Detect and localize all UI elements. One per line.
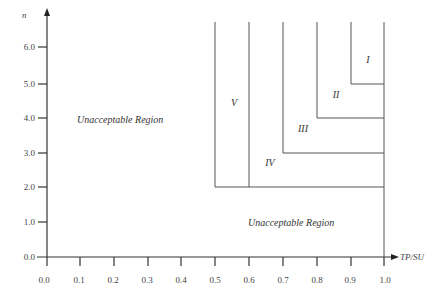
x-tick-label: 0.1 — [73, 275, 84, 285]
region-label-V: V — [231, 97, 239, 108]
x-tick-label: 0.5 — [209, 275, 221, 285]
region-label-IV: IV — [264, 157, 276, 168]
y-axis-title: n — [22, 10, 27, 20]
x-tick-label: 0.6 — [243, 275, 255, 285]
region-diagram: 0.0 1.0 2.0 3.0 4.0 5.0 6.0 n 0.0 0.1 0.… — [0, 0, 446, 300]
y-tick-labels: 0.0 1.0 2.0 3.0 4.0 5.0 6.0 — [24, 42, 36, 262]
x-ticks — [47, 257, 384, 266]
x-tick-label: 1.0 — [379, 275, 391, 285]
x-tick-label: 0.8 — [311, 275, 323, 285]
x-tick-label: 0.7 — [277, 275, 289, 285]
x-tick-label: 0.0 — [38, 275, 50, 285]
unacceptable-region-left: Unacceptable Region — [77, 114, 163, 125]
x-tick-label: 0.2 — [107, 275, 118, 285]
y-tick-label: 0.0 — [24, 252, 36, 262]
y-tick-label: 4.0 — [24, 113, 36, 123]
region-label-I: I — [365, 54, 370, 65]
y-tick-label: 3.0 — [24, 148, 36, 158]
x-axis-title: TP/SU — [400, 252, 425, 262]
region-label-II: II — [332, 89, 340, 100]
x-tick-label: 0.4 — [175, 275, 187, 285]
x-tick-label: 0.9 — [344, 275, 356, 285]
region-label-III: III — [297, 123, 309, 134]
boundary-region-V — [215, 22, 384, 187]
y-tick-label: 5.0 — [24, 79, 36, 89]
x-tick-label: 0.3 — [141, 275, 153, 285]
x-tick-labels: 0.0 0.1 0.2 0.3 0.4 0.5 0.6 0.7 0.8 0.9 … — [38, 275, 391, 285]
unacceptable-region-bottom: Unacceptable Region — [248, 217, 334, 228]
y-tick-label: 1.0 — [24, 217, 36, 227]
y-tick-label: 6.0 — [24, 42, 36, 52]
y-tick-label: 2.0 — [24, 182, 36, 192]
y-ticks — [38, 47, 47, 222]
boundary-region-I — [351, 22, 384, 84]
y-axis-arrow-icon — [44, 8, 50, 16]
diagram-canvas: 0.0 1.0 2.0 3.0 4.0 5.0 6.0 n 0.0 0.1 0.… — [0, 0, 446, 300]
x-axis-arrow-icon — [391, 254, 399, 260]
